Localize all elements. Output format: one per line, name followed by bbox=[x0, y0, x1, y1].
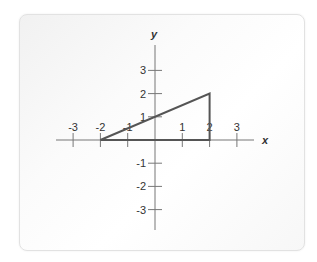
x-axis-label: x bbox=[261, 134, 269, 146]
y-tick-label: 3 bbox=[140, 64, 146, 76]
y-tick-label: -3 bbox=[136, 204, 146, 216]
y-tick-label: -2 bbox=[136, 180, 146, 192]
x-tick-label: -2 bbox=[96, 121, 106, 133]
x-tick-label: 3 bbox=[234, 121, 240, 133]
axes bbox=[56, 45, 254, 230]
x-tick-label: 1 bbox=[179, 121, 185, 133]
y-axis-label: y bbox=[150, 28, 158, 40]
y-tick-label: 2 bbox=[140, 88, 146, 100]
x-tick-label: -3 bbox=[68, 121, 78, 133]
y-tick-label: -1 bbox=[136, 157, 146, 169]
coordinate-plane: -3-2-1123321-1-2-3 x y bbox=[0, 0, 317, 262]
